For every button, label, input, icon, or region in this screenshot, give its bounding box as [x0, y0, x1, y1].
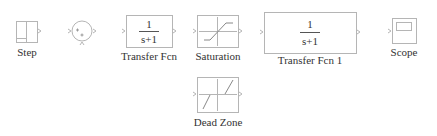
step-block[interactable] — [17, 22, 42, 43]
transfer-fcn-1-input-port-icon — [260, 30, 263, 34]
transfer-fcn-numerator: 1 — [139, 19, 159, 30]
saturation-output-port-icon — [239, 29, 242, 33]
transfer-fcn-1-output-port-icon — [357, 30, 360, 34]
sum-output-port-icon — [93, 29, 96, 33]
sum-block[interactable] — [68, 21, 96, 45]
dead-zone-input-port-icon — [193, 92, 196, 96]
step-output-port-icon — [38, 29, 41, 33]
saturation-block[interactable] — [193, 16, 242, 48]
scope-input-port-icon — [388, 29, 391, 33]
plus-sign-icon — [81, 34, 84, 37]
transfer-fcn-1-label: Transfer Fcn 1 — [278, 54, 342, 66]
transfer-fcn-output-port-icon — [173, 29, 176, 33]
dead-zone-output-port-icon — [239, 92, 242, 96]
sum-input-port-bottom-icon — [80, 42, 84, 45]
step-label: Step — [17, 46, 37, 58]
sum-input-port-left-icon — [68, 29, 71, 33]
transfer-fcn-1-numerator: 1 — [300, 19, 320, 30]
dead-zone-block[interactable] — [193, 78, 242, 113]
transfer-fcn-1-denominator: s+1 — [295, 36, 325, 47]
plus-sign-icon — [76, 29, 79, 32]
scope-block[interactable] — [388, 19, 417, 44]
dead-zone-label: Dead Zone — [194, 116, 243, 128]
saturation-input-port-icon — [193, 29, 196, 33]
transfer-fcn-denominator: s+1 — [134, 34, 164, 45]
scope-label: Scope — [391, 46, 418, 58]
transfer-fcn-label: Transfer Fcn — [121, 50, 177, 62]
saturation-label: Saturation — [195, 50, 240, 62]
transfer-fcn-input-port-icon — [122, 29, 125, 33]
